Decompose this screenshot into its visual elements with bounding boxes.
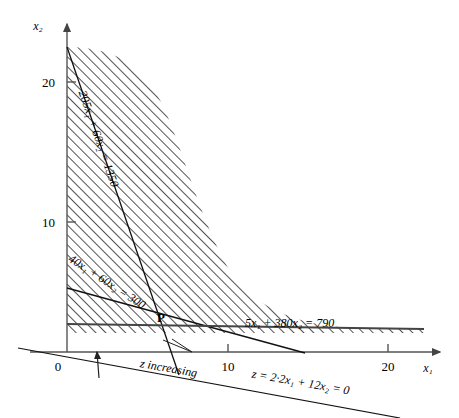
z-increasing-label: z increasing — [138, 356, 198, 380]
y-tick-label-10: 10 — [42, 215, 55, 230]
x-axis-label: x₁ — [422, 361, 433, 375]
origin-label: 0 — [55, 359, 62, 374]
vertex-label-p: P — [157, 310, 165, 325]
z-increasing-label-group: z increasing — [138, 356, 198, 380]
y-axis-label: x₂ — [32, 19, 43, 33]
y-tick-label-20: 20 — [42, 75, 55, 90]
z-increasing-arrow — [97, 352, 99, 378]
x-tick-label-10: 10 — [222, 359, 235, 374]
figure-canvas: x₂ x₁ 0 20 10 10 20 205x₁ + 60x₂ = 1350 … — [0, 0, 459, 418]
constraint-label-3: 5x₁ + 380x₂ = 790 — [245, 316, 334, 330]
x-tick-label-20: 20 — [382, 359, 395, 374]
linear-programming-figure: x₂ x₁ 0 20 10 10 20 205x₁ + 60x₂ = 1350 … — [0, 0, 459, 418]
